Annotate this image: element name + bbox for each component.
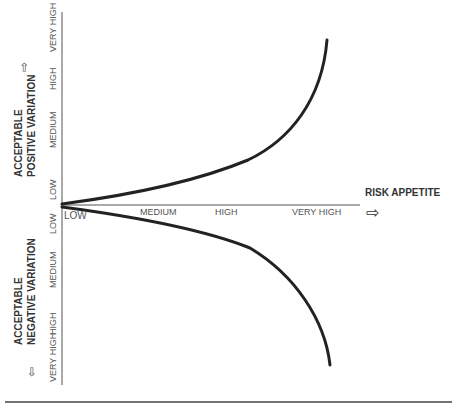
arrow-down-icon: ⇨	[25, 367, 39, 377]
upper-title-line2: POSITIVE VARIATION	[26, 75, 37, 177]
y-lower-tick-medium: MEDIUM	[48, 252, 58, 289]
arrow-up-icon: ⇨	[17, 62, 31, 72]
y-upper-tick-high: HIGH	[48, 68, 58, 91]
y-lower-tick-high: HIGH	[48, 313, 58, 336]
x-tick-very-high: VERY HIGH	[292, 207, 341, 217]
positive-variation-curve	[62, 40, 327, 204]
x-tick-medium: MEDIUM	[140, 207, 177, 217]
y-lower-tick-very-high: VERY HIGH	[48, 333, 58, 382]
y-lower-tick-low: LOW	[48, 213, 58, 234]
y-upper-tick-very-high: VERY HIGH	[48, 3, 58, 52]
upper-title-line1: ACCEPTABLE	[13, 109, 24, 177]
arrow-right-icon: ⇨	[366, 204, 379, 221]
risk-appetite-diagram: LOW MEDIUM HIGH VERY HIGH RISK APPETITE …	[0, 0, 452, 409]
lower-title-line2: NEGATIVE VARIATION	[26, 238, 37, 345]
y-upper-tick-medium: MEDIUM	[48, 112, 58, 149]
lower-title-line1: ACCEPTABLE	[13, 277, 24, 345]
negative-variation-curve	[62, 207, 330, 365]
x-tick-high: HIGH	[215, 207, 238, 217]
y-upper-tick-low: LOW	[48, 179, 58, 200]
x-tick-low: LOW	[64, 210, 87, 221]
x-axis-title: RISK APPETITE	[365, 187, 441, 198]
